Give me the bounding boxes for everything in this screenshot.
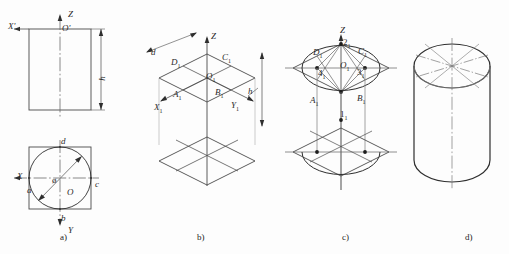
point-d-label: d xyxy=(61,137,66,146)
point-b1-label: B1 xyxy=(215,88,224,99)
point-a-marker xyxy=(28,177,30,179)
axis-z-label: Z xyxy=(68,10,73,19)
panel-b-dim-h-arrow-top xyxy=(260,52,264,59)
panel-b-axis-y1-arrow xyxy=(247,96,254,102)
engineering-drawing-figure xyxy=(0,0,509,254)
origin-o-label: O xyxy=(67,188,74,197)
point-c1-label: C1 xyxy=(222,53,231,64)
point-c-marker xyxy=(90,177,92,179)
axis-y-label: Y xyxy=(68,226,73,235)
axis-z-label: Z xyxy=(340,26,345,35)
panel-b-isometric-rhombi xyxy=(146,33,264,187)
point-b-label: b xyxy=(61,214,66,223)
axis-y1-label: Y1 xyxy=(231,101,239,112)
point-4-1-label: 41 xyxy=(318,69,326,80)
dim-h-arrow-bottom xyxy=(99,103,103,110)
axis-x-label: X xyxy=(17,172,23,181)
origin-o-prime-label: O' xyxy=(62,24,70,33)
panel-caption-a: a) xyxy=(60,232,67,242)
point-d1-label: D1 xyxy=(171,58,181,69)
point-1-1-label: 11 xyxy=(340,110,348,121)
point-c1-label: C1 xyxy=(358,47,367,58)
point-a1-label: A1 xyxy=(173,90,182,101)
panel-b-axis-x1-line xyxy=(161,78,207,101)
panel-d-finished-cylinder xyxy=(414,38,490,190)
panel-caption-d: d) xyxy=(465,232,473,242)
point-d1-label: D1 xyxy=(313,48,323,59)
point-d-marker xyxy=(59,146,61,148)
axis-x-prime-label: X' xyxy=(8,22,15,31)
panel-b-dim-h-arrow-bottom xyxy=(260,120,264,127)
lower-center-point-4 xyxy=(315,150,319,154)
axis-x1-label: X1 xyxy=(154,103,163,114)
panel-b-axis-z-arrow xyxy=(205,36,210,43)
point-b-marker xyxy=(59,208,61,210)
axis-z-arrow xyxy=(58,14,63,21)
point-b1-label: B1 xyxy=(357,94,366,105)
dimension-d-label: d xyxy=(151,48,156,57)
panel-b-axis-x1-arrow xyxy=(160,96,167,102)
point-c-label: c xyxy=(95,180,99,189)
dim-h-arrow-top xyxy=(99,29,103,36)
axis-z-label: Z xyxy=(211,32,216,41)
dimension-h-label: h xyxy=(248,87,253,96)
panel-caption-c: c) xyxy=(342,232,349,242)
point-a1-label: A1 xyxy=(310,96,319,107)
point-a-label: a xyxy=(27,186,32,195)
panel-caption-b: b) xyxy=(197,232,205,242)
point-o1-label: O1 xyxy=(340,61,350,72)
dimension-h-label: h xyxy=(98,76,107,81)
point-2-1-label: 21 xyxy=(343,38,351,49)
diameter-symbol: ø xyxy=(52,176,57,185)
lower-center-point-3 xyxy=(363,150,367,154)
dim-d-arrow-right xyxy=(190,33,197,38)
point-o1-label: O1 xyxy=(206,72,216,83)
point-3-1-label: 31 xyxy=(357,68,365,79)
